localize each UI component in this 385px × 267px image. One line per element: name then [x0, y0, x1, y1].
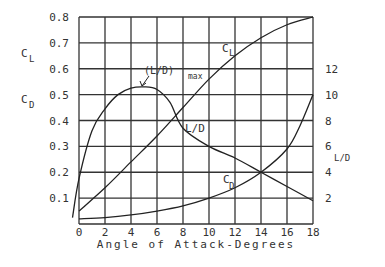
svg-text:0.2: 0.2 — [49, 166, 69, 179]
cl-axis-label-sub: L — [29, 54, 34, 64]
cl-curve-label-sub: L — [229, 48, 234, 58]
svg-text:0.8: 0.8 — [49, 11, 69, 24]
svg-text:0: 0 — [76, 226, 83, 239]
cd-axis-label-sub: D — [29, 100, 34, 110]
ld-axis-label: L/D — [334, 153, 350, 163]
svg-text:10: 10 — [325, 89, 338, 102]
svg-text:12: 12 — [325, 63, 338, 76]
aerodynamic-chart: 0246810121416180.10.20.30.40.50.60.70.82… — [0, 0, 385, 267]
ldmax-arrow-icon — [140, 76, 149, 86]
svg-text:2: 2 — [325, 192, 332, 205]
svg-text:0.1: 0.1 — [49, 192, 69, 205]
x-axis-title: Angle of Attack-Degrees — [97, 238, 295, 251]
cl-curve-label: C — [222, 42, 229, 55]
curves — [73, 17, 314, 219]
curve-cd — [79, 95, 313, 219]
svg-text:4: 4 — [325, 166, 332, 179]
svg-text:8: 8 — [325, 115, 332, 128]
svg-text:0.7: 0.7 — [49, 37, 69, 50]
svg-text:18: 18 — [306, 226, 319, 239]
cd-curve-label-sub: D — [229, 181, 234, 191]
svg-text:0.4: 0.4 — [49, 115, 69, 128]
cl-axis-label: C — [21, 47, 28, 60]
svg-text:6: 6 — [325, 140, 332, 153]
ldmax-label: (L/D) — [144, 65, 174, 76]
svg-text:0.5: 0.5 — [49, 89, 69, 102]
ld-curve-label: L/D — [185, 122, 205, 135]
ldmax-label-sub: max — [188, 72, 203, 81]
svg-text:0.3: 0.3 — [49, 140, 69, 153]
grid — [79, 17, 313, 224]
svg-text:0.6: 0.6 — [49, 63, 69, 76]
cd-axis-label: C — [21, 93, 28, 106]
